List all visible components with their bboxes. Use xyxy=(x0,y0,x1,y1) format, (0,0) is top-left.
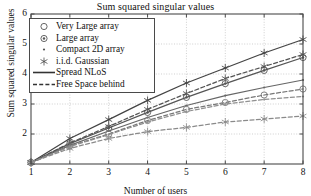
data-marker-hexagram-ray xyxy=(261,65,264,67)
data-marker-dot xyxy=(185,110,187,112)
data-marker-hexagram-ray xyxy=(109,120,112,122)
legend-item[interactable]: Large array xyxy=(32,33,152,45)
data-marker-hexagram-ray xyxy=(183,92,186,94)
y-tick-label: 4 xyxy=(13,68,27,78)
data-marker-hexagram-ray xyxy=(106,118,109,120)
data-marker-hexagram-ray xyxy=(186,83,189,85)
data-marker-hexagram-ray xyxy=(41,61,44,63)
x-tick-label: 3 xyxy=(99,167,119,177)
data-marker-hexagram-ray xyxy=(41,59,44,61)
legend-item[interactable]: Compact 2D array xyxy=(32,44,152,56)
x-tick-label: 8 xyxy=(293,167,311,177)
data-marker-dot xyxy=(263,86,265,88)
legend-item-label: i.i.d. Gaussian xyxy=(56,56,109,67)
data-marker-hexagram-ray xyxy=(225,68,228,70)
data-marker-circle xyxy=(41,24,47,30)
circle-marker-icon xyxy=(32,21,56,32)
data-marker-hexagram-ray xyxy=(144,108,147,110)
data-marker-dot xyxy=(146,121,148,123)
data-marker-dot xyxy=(43,37,45,39)
x-tick-label: 7 xyxy=(254,167,274,177)
x-tick-label: 4 xyxy=(138,167,158,177)
data-marker-hexagram-ray xyxy=(67,137,70,139)
data-marker-dot xyxy=(224,103,226,105)
data-marker-hexagram-ray xyxy=(70,139,73,141)
legend-item[interactable]: i.i.d. Gaussian xyxy=(32,56,152,68)
data-marker-dot xyxy=(224,95,226,97)
x-tick-label: 2 xyxy=(60,167,80,177)
y-tick-label: 6 xyxy=(13,8,27,18)
data-marker-hexagram-ray xyxy=(225,79,228,81)
data-marker-hexagram-ray xyxy=(44,61,47,63)
figure-container: Sum squared singular values Sum squared … xyxy=(0,0,311,196)
solid-line-icon xyxy=(32,67,56,78)
circle-dot-marker-icon xyxy=(32,33,56,44)
legend-item-label: Compact 2D array xyxy=(56,44,125,55)
legend-item-label: Spread NLoS xyxy=(56,67,106,78)
data-marker-hexagram-ray xyxy=(222,120,225,122)
data-marker-hexagram-ray xyxy=(144,99,147,101)
x-tick-label: 1 xyxy=(21,167,41,177)
x-tick-label: 5 xyxy=(176,167,196,177)
data-marker-dot xyxy=(263,98,265,100)
data-marker-hexagram-ray xyxy=(222,66,225,68)
data-marker-hexagram-ray xyxy=(148,100,151,102)
dashed-line-icon xyxy=(32,79,56,90)
legend-item-label: Free Space behind xyxy=(56,79,125,90)
data-marker-hexagram-ray xyxy=(264,53,267,55)
data-marker-hexagram-ray xyxy=(183,81,186,83)
data-marker-hexagram-ray xyxy=(44,59,47,61)
legend-item[interactable]: Free Space behind xyxy=(32,79,152,91)
legend: Very Large arrayLarge arrayCompact 2D ar… xyxy=(29,18,155,93)
data-marker-hexagram-ray xyxy=(261,51,264,53)
legend-item-label: Very Large array xyxy=(56,21,119,32)
data-marker-hexagram-ray xyxy=(222,77,225,79)
legend-item[interactable]: Very Large array xyxy=(32,21,152,33)
hexagram-marker-icon xyxy=(32,56,56,67)
dot-marker-icon xyxy=(32,44,56,55)
data-marker-dot xyxy=(224,82,226,84)
x-tick-label: 6 xyxy=(215,167,235,177)
legend-item[interactable]: Spread NLoS xyxy=(32,67,152,79)
legend-item-label: Large array xyxy=(56,33,99,44)
data-marker-dot xyxy=(43,49,45,51)
y-tick-label: 5 xyxy=(13,38,27,48)
y-tick-label: 3 xyxy=(13,98,27,108)
y-tick-label: 2 xyxy=(13,128,27,138)
